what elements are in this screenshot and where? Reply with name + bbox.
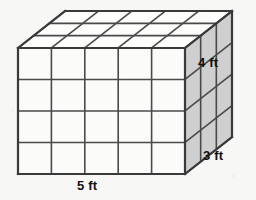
rectangular-prism-figure: [0, 0, 256, 200]
width-dimension-label: 5 ft: [77, 178, 97, 193]
height-dimension-label: 4 ft: [198, 55, 218, 70]
depth-dimension-label: 3 ft: [203, 148, 223, 163]
diagram-canvas: 4 ft 3 ft 5 ft: [0, 0, 256, 200]
